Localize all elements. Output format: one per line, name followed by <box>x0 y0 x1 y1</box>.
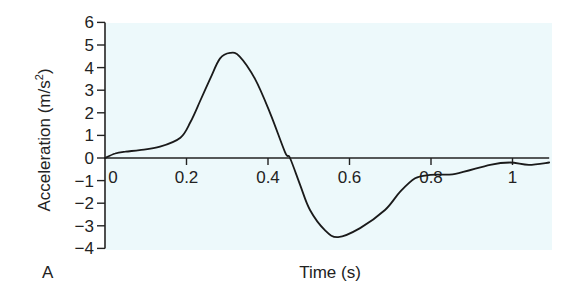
y-tick-label: −2 <box>75 194 94 213</box>
y-tick-label: 3 <box>85 81 94 100</box>
y-tick-label: 6 <box>85 13 94 32</box>
y-tick-label: 1 <box>85 126 94 145</box>
x-axis-label: Time (s) <box>299 263 361 282</box>
y-tick-label: 5 <box>85 36 94 55</box>
x-tick-label: 0.6 <box>338 168 362 187</box>
y-tick-label: −1 <box>75 172 94 191</box>
y-tick-label: −4 <box>75 239 94 258</box>
panel-label: A <box>42 263 54 282</box>
x-tick-label: 0.8 <box>419 168 443 187</box>
y-tick-label: −3 <box>75 217 94 236</box>
x-tick-label: 0.2 <box>175 168 199 187</box>
y-axis-ticks: 6543210−1−2−3−4 <box>75 13 105 258</box>
x-tick-label: 0 <box>108 168 117 187</box>
y-tick-label: 0 <box>85 149 94 168</box>
x-tick-label: 0.4 <box>256 168 280 187</box>
acceleration-chart: 6543210−1−2−3−4 00.20.40.60.81 Accelerat… <box>0 0 584 299</box>
y-tick-label: 4 <box>85 59 94 78</box>
x-tick-label: 1 <box>508 168 517 187</box>
y-axis-label: Acceleration (m/s2) <box>33 68 54 211</box>
y-tick-label: 2 <box>85 104 94 123</box>
plot-background <box>106 23 552 250</box>
